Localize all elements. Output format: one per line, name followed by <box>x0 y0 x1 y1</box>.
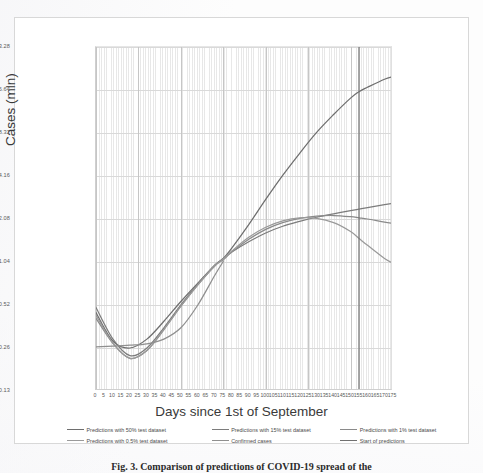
x-tick-label: 135 <box>320 392 329 398</box>
legend-item-predictions-15[interactable]: Predictions with 15% test dataset <box>212 427 341 433</box>
legend-swatch-icon <box>212 429 229 431</box>
x-tick-label: 15 <box>118 392 124 398</box>
x-tick-label: 0 <box>94 392 97 398</box>
x-tick-label: 60 <box>194 392 200 398</box>
legend-row-1: Predictions with 50% test dataset Predic… <box>45 424 445 435</box>
y-tick-label: 4.16 <box>0 172 10 178</box>
x-tick-label: 75 <box>219 392 225 398</box>
y-tick-label: 2.08 <box>0 215 10 221</box>
legend-label: Predictions with 0.5% test dataset <box>87 438 168 444</box>
x-tick-label: 160 <box>362 392 371 398</box>
chart-legend: Predictions with 50% test dataset Predic… <box>45 424 445 446</box>
x-tick-label: 85 <box>236 392 242 398</box>
x-tick-label: 120 <box>294 392 303 398</box>
y-tick-label: 33.28 <box>0 43 10 49</box>
y-tick-label: 0.13 <box>0 387 10 393</box>
x-tick-label: 105 <box>269 392 278 398</box>
legend-item-predictions-05[interactable]: Predictions with 0.5% test dataset <box>45 438 212 444</box>
x-tick-label: 110 <box>278 392 286 398</box>
x-tick-label: 165 <box>371 392 380 398</box>
plot-area: 33.2816.648.324.162.081.040.520.260.13 <box>95 46 392 390</box>
x-tick-label: 100 <box>260 392 269 398</box>
x-tick-label: 130 <box>311 392 320 398</box>
x-tick-label: 10 <box>109 392 115 398</box>
x-tick-label: 115 <box>286 392 294 398</box>
x-tick-label: 45 <box>168 392 174 398</box>
y-tick-label: 16.64 <box>0 86 10 92</box>
y-axis-title: Cases (mln) <box>3 73 18 146</box>
x-tick-label: 175 <box>388 392 397 398</box>
legend-item-confirmed-cases[interactable]: Confirmed cases <box>212 438 341 444</box>
x-tick-label: 140 <box>328 392 337 398</box>
legend-swatch-icon <box>67 440 84 442</box>
y-tick-label: 0.52 <box>0 301 10 307</box>
legend-label: Predictions with 1% test dataset <box>360 427 436 433</box>
x-axis-tick-labels: 0510152025303540455055606570758085909510… <box>95 392 392 404</box>
x-tick-label: 30 <box>143 392 149 398</box>
figure-frame: Cases (mln) 33.2816.648.324.162.081.040.… <box>14 17 469 444</box>
y-tick-label: 8.32 <box>0 129 10 135</box>
legend-swatch-icon <box>212 440 229 442</box>
x-tick-label: 90 <box>245 392 251 398</box>
legend-item-predictions-1[interactable]: Predictions with 1% test dataset <box>340 427 445 433</box>
x-tick-label: 145 <box>337 392 346 398</box>
legend-swatch-icon <box>340 440 357 442</box>
x-tick-label: 125 <box>303 392 312 398</box>
x-tick-label: 170 <box>379 392 388 398</box>
x-tick-label: 70 <box>211 392 217 398</box>
y-tick-label: 0.26 <box>0 344 10 350</box>
x-tick-label: 20 <box>126 392 132 398</box>
legend-label: Predictions with 50% test dataset <box>87 427 166 433</box>
x-tick-label: 150 <box>345 392 354 398</box>
legend-row-2: Predictions with 0.5% test dataset Confi… <box>45 435 445 446</box>
x-tick-label: 65 <box>202 392 208 398</box>
legend-item-predictions-50[interactable]: Predictions with 50% test dataset <box>45 427 212 433</box>
legend-item-start-of-predictions[interactable]: Start of predictions <box>340 438 445 444</box>
x-tick-label: 35 <box>152 392 158 398</box>
legend-label: Predictions with 15% test dataset <box>231 427 310 433</box>
legend-label: Confirmed cases <box>231 438 271 444</box>
x-tick-label: 40 <box>160 392 166 398</box>
x-tick-label: 155 <box>354 392 363 398</box>
x-tick-label: 80 <box>228 392 234 398</box>
legend-label: Start of predictions <box>360 438 405 444</box>
x-tick-label: 95 <box>253 392 259 398</box>
plot-inner <box>95 46 392 390</box>
start-of-predictions-line <box>96 47 392 390</box>
x-tick-label: 5 <box>102 392 105 398</box>
y-tick-label: 1.04 <box>0 258 10 264</box>
x-tick-label: 50 <box>177 392 183 398</box>
x-tick-label: 55 <box>185 392 191 398</box>
x-axis-title: Days since 1st of September <box>15 404 468 419</box>
x-tick-label: 25 <box>135 392 141 398</box>
legend-swatch-icon <box>67 429 84 431</box>
legend-swatch-icon <box>340 429 357 431</box>
figure-caption: Fig. 3. Comparison of predictions of COV… <box>0 461 483 473</box>
